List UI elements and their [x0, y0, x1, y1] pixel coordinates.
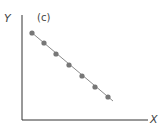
panel-label: (c): [37, 13, 50, 23]
data-point: [66, 62, 71, 67]
data-point: [92, 84, 97, 89]
data-point: [29, 30, 34, 35]
data-point: [105, 94, 110, 99]
data-point: [41, 40, 46, 45]
scatter-plot: [0, 0, 162, 127]
x-axis-label: X: [150, 114, 158, 125]
data-point: [79, 73, 84, 78]
data-point: [53, 51, 58, 56]
y-axis-label: Y: [4, 13, 11, 24]
